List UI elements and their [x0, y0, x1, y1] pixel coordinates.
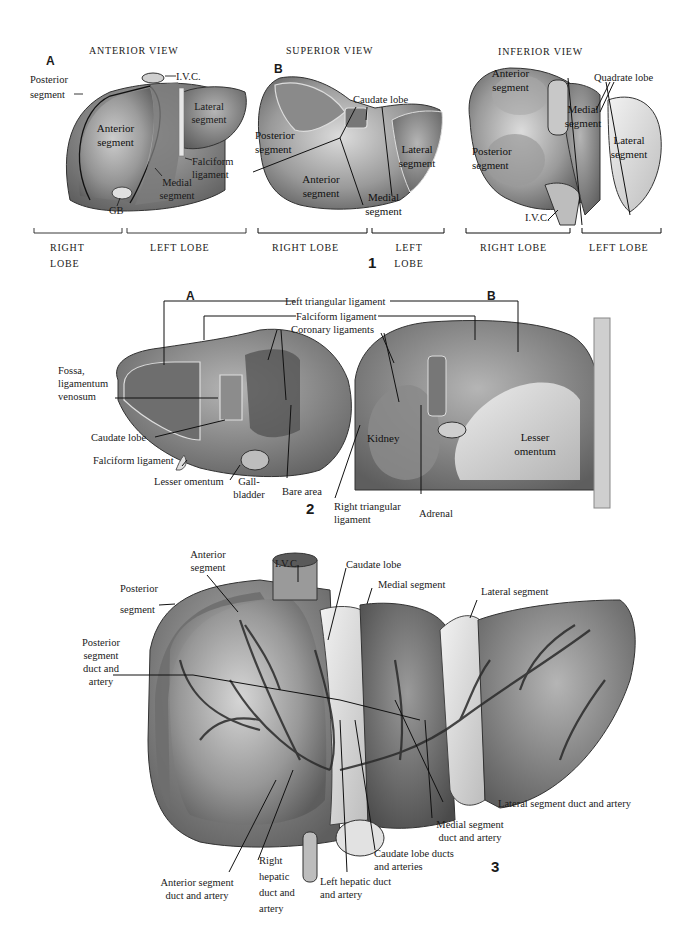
fig2a-bare-area [245, 349, 300, 437]
fig3-left-hepatic-duct-label: Left hepatic duct and artery [320, 875, 395, 901]
fig3-anterior-segment-label: Anterior segment [180, 548, 236, 574]
anterior-ivc-label: I.V.C. [176, 70, 201, 83]
anterior-ivc [142, 73, 164, 83]
figure3-illustration [113, 553, 635, 882]
fig3-posterior-segment-duct-label: Posterior segment duct and artery [74, 636, 128, 688]
anterior-medial-segment-label: Medial segment [152, 176, 202, 202]
fig3-ivc-label: I.V.C. [275, 557, 300, 570]
fig2-right-triangular-ligament-label: Right triangular ligament [334, 500, 404, 526]
fig3-common-duct [303, 832, 317, 882]
fig3-right-hepatic-duct-label: Right hepatic duct and artery [259, 853, 299, 917]
fig2a-gallbladder [241, 450, 269, 470]
inferior-view-title: INFERIOR VIEW [498, 46, 583, 57]
fig2-falciform-ligament-top-label: Falciform ligament [296, 310, 377, 323]
anterior-view-title: ANTERIOR VIEW [89, 45, 178, 56]
fig2b-diaphragm-edge [594, 318, 610, 508]
anterior-lateral-segment-label: Lateral segment [184, 100, 234, 126]
superior-left-lobe-label: LEFT LOBE [390, 240, 428, 272]
superior-medial-segment-label: Medial segment [361, 190, 406, 218]
anterior-left-lobe-label: LEFT LOBE [150, 240, 210, 256]
fig2-panel-label-b: B [487, 289, 496, 303]
fig2-lesser-omentum-b-label: Lesser omentum [510, 430, 560, 458]
inferior-left-lobe-label: LEFT LOBE [589, 240, 649, 256]
figure-1-number: 1 [368, 254, 376, 271]
inferior-anterior-segment-label: Anterior segment [488, 66, 533, 94]
fig2-adrenal-label: Adrenal [419, 507, 453, 520]
fig2-coronary-ligaments-label: Coronary ligaments [291, 323, 374, 336]
panel-label-a: A [46, 54, 55, 68]
fig2-gallbladder-label: Gall- bladder [231, 475, 267, 501]
fig2-lesser-omentum-a-label: Lesser omentum [154, 475, 224, 488]
inferior-lateral-segment-label: Lateral segment [605, 133, 653, 161]
superior-caudate-lobe [345, 108, 367, 128]
panel-label-b: B [274, 62, 283, 76]
figure-3-number: 3 [491, 858, 499, 875]
superior-right-lobe-label: RIGHT LOBE [272, 240, 339, 256]
superior-lateral-segment-label: Lateral segment [393, 142, 441, 170]
fig2a-caudate [220, 375, 242, 420]
fig2-fossa-ligamentum-venosum-label: Fossa, ligamentum venosum [58, 364, 118, 403]
fig3-medial-segment-label: Medial segment [378, 578, 445, 591]
anterior-right-lobe-label: RIGHT LOBE [50, 240, 110, 272]
inferior-ivc-label: I.V.C. [525, 211, 550, 224]
superior-view-title: SUPERIOR VIEW [286, 45, 373, 56]
fig2-left-triangular-ligament-label: Left triangular ligament [285, 295, 385, 308]
anterior-posterior-segment-label: Posterior segment [30, 72, 78, 102]
anterior-anterior-segment-label: Anterior segment [88, 121, 143, 149]
fig3-anterior-segment-duct-label: Anterior segment duct and artery [157, 876, 237, 902]
fig2-falciform-ligament-label: Falciform ligament [93, 454, 174, 467]
inferior-medial-segment-label: Medial segment [563, 102, 603, 130]
fig2-caudate-lobe-label: Caudate lobe [91, 431, 146, 444]
fig3-anterior-segment [170, 598, 327, 825]
inferior-right-lobe-label: RIGHT LOBE [480, 240, 547, 256]
fig3-medial-segment-duct-label: Medial segment duct and artery [430, 818, 510, 844]
fig3-lateral-segment-duct-label: Lateral segment duct and artery [498, 797, 631, 810]
superior-caudate-lobe-label: Caudate lobe [353, 93, 408, 106]
fig3-caudate-lobe-label: Caudate lobe [346, 558, 401, 571]
fig2-kidney-label: Kidney [367, 431, 399, 445]
fig3-lateral-segment-label: Lateral segment [481, 585, 548, 598]
fig3-lateral-segment [478, 600, 635, 808]
anterior-gb-label: GB [109, 204, 124, 217]
figure-2-number: 2 [306, 500, 314, 517]
fig2-bare-area-label: Bare area [282, 485, 322, 498]
anterior-gallbladder [112, 187, 132, 199]
fig2b-portal [438, 422, 466, 438]
inferior-quadrate-lobe-label: Quadrate lobe [594, 71, 653, 84]
superior-anterior-segment-label: Anterior segment [296, 172, 346, 200]
inferior-posterior-segment-label: Posterior segment [472, 144, 522, 172]
fig2b-ivc [428, 356, 446, 416]
superior-posterior-segment-label: Posterior segment [255, 128, 305, 156]
fig2-panel-label-a: A [186, 289, 195, 303]
fig3-posterior-segment-label: Posterior segment [120, 578, 170, 620]
fig3-caudate-lobe-ducts-label: Caudate lobe ducts and arteries [374, 847, 464, 873]
